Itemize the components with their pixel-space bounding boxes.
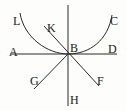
label-f: F [97,74,104,88]
geometry-figure: L K C A B D G F H [0,0,126,111]
label-d: D [108,42,117,56]
curve-lbc [20,13,112,54]
label-a: A [9,45,18,59]
line-kf [44,26,99,86]
label-l: L [13,14,20,28]
label-g: G [30,74,39,88]
label-b: B [70,41,78,55]
line-bg [34,54,68,89]
label-c: C [110,14,118,28]
label-h: H [70,93,79,107]
diagram: L K C A B D G F H [0,0,126,111]
label-k: K [47,21,56,35]
